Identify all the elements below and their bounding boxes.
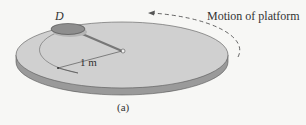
disk-d (51, 24, 85, 35)
figure: D 1 m Motion of platform (a) (0, 0, 306, 125)
disk-label: D (55, 9, 64, 24)
figure-caption: (a) (117, 101, 129, 113)
platform-top (16, 22, 228, 88)
radius-label: 1 m (80, 56, 97, 68)
motion-label: Motion of platform (207, 9, 300, 24)
